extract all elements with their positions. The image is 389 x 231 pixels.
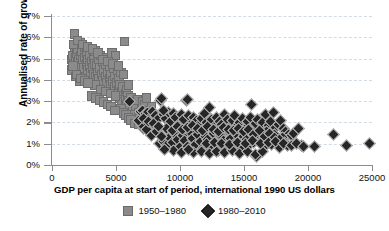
y-tick	[44, 37, 52, 38]
y-tick-label: 4%	[10, 74, 40, 85]
data-point	[308, 140, 321, 153]
x-tick-label: 0	[22, 172, 82, 183]
gridline	[52, 16, 372, 17]
x-tick-label: 25000	[342, 172, 389, 183]
legend-item-1980-2010: 1980–2010	[203, 205, 266, 216]
gridline	[52, 37, 372, 38]
data-point	[110, 106, 120, 116]
data-point	[340, 139, 353, 152]
x-axis-title: GDP per capita at start of period, inter…	[0, 184, 389, 195]
data-point	[245, 98, 258, 111]
scatter-chart: Annualised rate of growth 0%1%2%3%4%5%6%…	[0, 0, 389, 231]
data-point	[327, 128, 340, 141]
data-point	[124, 80, 134, 90]
x-tick	[308, 165, 309, 171]
data-point	[363, 137, 376, 150]
x-tick-label: 5000	[86, 172, 146, 183]
x-tick-label: 20000	[278, 172, 338, 183]
plot-area	[52, 16, 372, 165]
legend-item-1950-1980: 1950–1980	[123, 205, 186, 216]
x-tick	[372, 165, 373, 171]
x-tick-label: 15000	[214, 172, 274, 183]
x-axis-line	[51, 165, 373, 166]
x-tick-label: 10000	[150, 172, 210, 183]
x-tick	[244, 165, 245, 171]
x-tick	[180, 165, 181, 171]
chart-legend: 1950–1980 1980–2010	[0, 205, 389, 216]
data-point	[83, 78, 93, 88]
y-tick-label: 3%	[10, 95, 40, 106]
data-point	[114, 61, 124, 71]
y-tick-label: 7%	[10, 10, 40, 21]
y-tick	[44, 59, 52, 60]
y-tick	[44, 144, 52, 145]
y-tick	[44, 122, 52, 123]
y-tick-label: 0%	[10, 159, 40, 170]
x-tick	[116, 165, 117, 171]
legend-label-1980-2010: 1980–2010	[218, 205, 266, 216]
y-tick	[44, 165, 52, 166]
x-tick	[52, 165, 53, 171]
data-point	[120, 37, 130, 47]
y-tick	[44, 101, 52, 102]
y-tick-label: 2%	[10, 116, 40, 127]
y-tick	[44, 80, 52, 81]
data-point	[119, 70, 129, 80]
square-marker-icon	[123, 206, 133, 216]
y-tick	[44, 16, 52, 17]
y-tick-label: 5%	[10, 53, 40, 64]
y-tick-label: 1%	[10, 138, 40, 149]
diamond-marker-icon	[201, 203, 215, 217]
y-tick-label: 6%	[10, 31, 40, 42]
data-point	[111, 91, 121, 101]
legend-label-1950-1980: 1950–1980	[138, 205, 186, 216]
